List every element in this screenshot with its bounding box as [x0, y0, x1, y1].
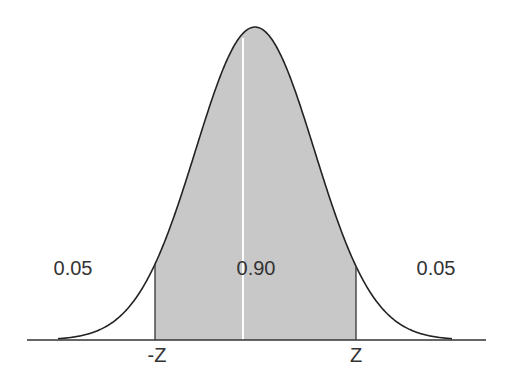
left-tail-label: 0.05 [54, 257, 93, 279]
normal-distribution-chart: 0.05 0.90 0.05 -Z Z [0, 0, 514, 381]
right-tail-label: 0.05 [417, 257, 456, 279]
pos-z-tick-label: Z [350, 344, 362, 366]
center-region-label: 0.90 [237, 257, 276, 279]
neg-z-tick-label: -Z [148, 344, 167, 366]
